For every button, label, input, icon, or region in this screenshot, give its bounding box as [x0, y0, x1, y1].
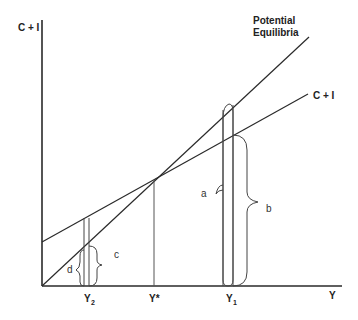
tick-y2: Y 2 [84, 293, 95, 306]
tick-y1: Y 1 [226, 293, 237, 306]
svg-text:1: 1 [233, 299, 237, 306]
y-axis-label: C + I [18, 22, 40, 33]
brace-a-tick [216, 185, 223, 194]
brace-d-label: d [67, 264, 73, 275]
brace-a [223, 104, 233, 286]
potential-equilibria-label-2: Equilibria [253, 27, 299, 38]
keynesian-cross-diagram: C + I Y Potential Equilibria C + I Y 2 Y… [0, 0, 358, 320]
brace-b-label: b [266, 203, 272, 214]
potential-equilibria-label-1: Potential [253, 15, 295, 26]
svg-text:2: 2 [91, 299, 95, 306]
brace-d [76, 250, 84, 286]
brace-a-label: a [201, 188, 207, 199]
svg-text:Y: Y [226, 293, 233, 304]
svg-text:Y*: Y* [149, 293, 160, 304]
ci-line-label: C + I [313, 90, 335, 101]
potential-equilibria-line [42, 37, 309, 286]
brace-c [89, 246, 102, 286]
x-axis-label: Y [329, 290, 336, 301]
svg-text:Y: Y [84, 293, 91, 304]
ci-line [42, 94, 308, 242]
brace-c-label: c [114, 249, 119, 260]
tick-ystar: Y* [149, 293, 160, 304]
brace-b [233, 135, 258, 286]
